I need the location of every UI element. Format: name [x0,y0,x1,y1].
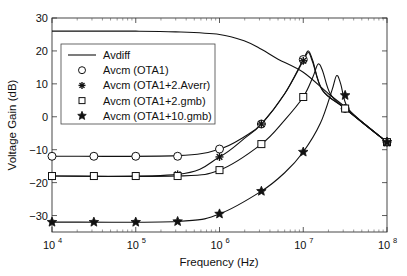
circle-marker-icon [79,67,86,74]
circle-marker-icon [90,152,98,160]
star-marker-icon [89,217,99,226]
y-tick-label: −20 [29,177,48,189]
y-tick-label: −10 [29,144,48,156]
x-tick-exponent: 5 [142,236,146,245]
legend-label: Avcm (OTA1+10.gmb) [103,110,212,122]
square-marker-icon [300,94,307,101]
x-tick-exponent: 8 [393,236,397,245]
y-tick-label: −30 [29,210,48,222]
asterisk-marker-icon [216,153,224,161]
square-marker-icon [174,173,181,180]
voltage-gain-chart: 104105106107108−30−20−100102030 AvdiffAv… [0,0,407,276]
x-tick-exponent: 4 [58,236,62,245]
star-marker-icon [173,216,183,225]
x-tick-exponent: 7 [309,236,313,245]
asterisk-marker-icon [257,120,265,128]
x-tick-exponent: 6 [226,236,230,245]
square-marker-icon [49,173,56,180]
square-marker-icon [342,105,349,112]
legend: AvdiffAvcm (OTA1)Avcm (OTA1+2.Averr)Avcm… [61,44,215,124]
square-marker-icon [79,98,85,104]
asterisk-marker-icon [79,82,86,89]
star-marker-icon [298,147,308,156]
circle-marker-icon [132,152,140,160]
circle-marker-icon [48,152,56,160]
legend-label: Avcm (OTA1+2.gmb) [103,95,206,107]
star-marker-icon [340,90,350,99]
legend-label: Avcm (OTA1+2.Averr) [103,79,210,91]
square-marker-icon [216,167,223,174]
asterisk-marker-icon [299,57,307,65]
y-tick-label: 0 [42,111,48,123]
y-tick-label: 20 [36,45,48,57]
legend-label: Avdiff [103,49,131,61]
x-tick-label: 10 [210,239,222,251]
y-tick-label: 30 [36,12,48,24]
square-marker-icon [132,173,139,180]
x-axis-title: Frequency (Hz) [179,256,258,268]
x-tick-label: 10 [378,239,390,251]
circle-marker-icon [174,152,182,160]
star-marker-icon [47,217,57,226]
circle-marker-icon [216,145,224,153]
x-tick-label: 10 [294,239,306,251]
star-marker-icon [131,217,141,226]
y-axis-title: Voltage Gain (dB) [6,79,18,170]
square-marker-icon [90,173,97,180]
x-tick-label: 10 [127,239,139,251]
x-tick-label: 10 [43,239,55,251]
star-marker-icon [215,209,225,218]
legend-label: Avcm (OTA1) [103,64,169,76]
square-marker-icon [258,141,265,148]
y-tick-label: 10 [36,78,48,90]
